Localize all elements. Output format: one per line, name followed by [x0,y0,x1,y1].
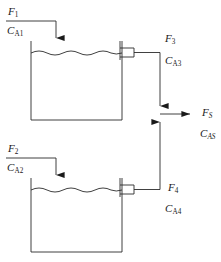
process-flow-diagram: F1 CA1 F3 CA3 FS CAS F2 CA2 F4 C [0,0,221,262]
label-flow-f4: F4 [168,182,178,193]
label-conc-cas: CAS [200,128,215,139]
label-flow-f3: F3 [165,33,175,44]
label-flow-f2: F2 [8,143,18,154]
label-conc-ca4: CA4 [165,203,181,214]
label-conc-ca3: CA3 [165,55,181,66]
label-flow-f1: F1 [8,6,18,17]
label-conc-ca2: CA2 [7,162,23,173]
label-conc-ca1: CA1 [7,25,23,36]
label-layer: F1 CA1 F3 CA3 FS CAS F2 CA2 F4 C [0,0,221,262]
label-flow-fs: FS [202,107,212,118]
